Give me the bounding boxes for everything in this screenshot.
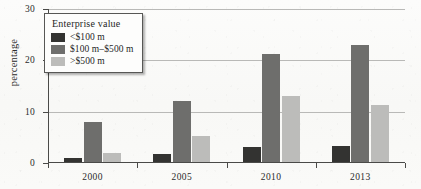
chart-legend: Enterprise value <$100 m$100 m–$500 m>$5… (44, 13, 143, 73)
legend-entries: <$100 m$100 m–$500 m>$500 m (51, 31, 134, 67)
bar (332, 146, 350, 162)
x-axis-tick (316, 163, 317, 168)
bar (262, 54, 280, 162)
bar (351, 45, 369, 162)
x-axis-tick-label: 2005 (172, 172, 193, 182)
x-axis-tick (48, 163, 49, 168)
y-axis-tick: 30 (43, 9, 48, 10)
legend-item-label: <$100 m (70, 32, 105, 42)
legend-title: Enterprise value (52, 18, 134, 29)
y-axis-tick-label: 0 (30, 158, 35, 168)
x-axis-tick-label: 2000 (82, 172, 103, 182)
gridline (48, 9, 405, 10)
bar (192, 136, 210, 162)
chart-figure: percentage 0102030 2000200520102013 Ente… (0, 0, 421, 189)
bar (243, 147, 261, 162)
x-axis-tick (405, 163, 406, 168)
x-axis-tick-label: 2013 (350, 172, 371, 182)
legend-swatch-icon (51, 33, 65, 42)
x-axis-tick (137, 163, 138, 168)
y-axis-tick-label: 30 (25, 4, 35, 14)
y-axis-label: percentage (8, 20, 19, 106)
legend-item-label: >$500 m (70, 56, 105, 66)
y-axis-tick-label: 20 (25, 55, 35, 65)
bar (371, 105, 389, 162)
legend-item: $100 m–$500 m (51, 43, 134, 55)
x-axis-tick (227, 163, 228, 168)
y-axis-tick-label: 10 (25, 107, 35, 117)
legend-swatch-icon (51, 45, 65, 54)
bar (173, 101, 191, 162)
legend-item: >$500 m (51, 55, 134, 67)
legend-swatch-icon (51, 57, 65, 66)
legend-item: <$100 m (51, 31, 134, 43)
bar (84, 122, 102, 162)
x-axis-tick-label: 2010 (261, 172, 282, 182)
legend-item-label: $100 m–$500 m (70, 44, 134, 54)
bar (282, 96, 300, 162)
y-axis-tick: 10 (43, 112, 48, 113)
